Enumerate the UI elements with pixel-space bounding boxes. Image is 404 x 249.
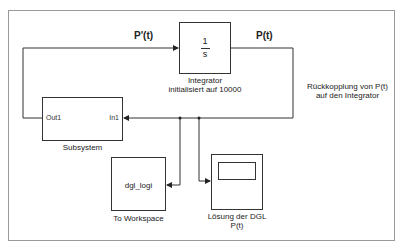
to-workspace-block[interactable]: dgl_logi <box>111 157 166 211</box>
feedback-annotation-line2: auf den Integrator <box>300 91 395 100</box>
integrator-numerator: 1 <box>180 36 230 46</box>
workspace-variable: dgl_logi <box>112 181 165 190</box>
integrator-label: Integrator <box>155 76 255 85</box>
scope-label: Lösung der DGL <box>202 212 272 221</box>
feedback-annotation-line1: Rückkopplung von P(t) <box>300 82 395 91</box>
scope-block[interactable] <box>211 154 263 210</box>
scope-sublabel: P(t) <box>202 221 272 230</box>
subsystem-label: Subsystem <box>42 143 123 152</box>
to-workspace-label: To Workspace <box>106 214 171 223</box>
signal-label-state: P(t) <box>256 30 273 41</box>
subsystem-in-port: In1 <box>109 114 119 121</box>
signal-label-derivative: P'(t) <box>134 30 153 41</box>
subsystem-out-port: Out1 <box>46 114 61 121</box>
integrator-block[interactable]: 1 s <box>179 22 231 74</box>
scope-screen-icon <box>218 162 256 180</box>
integrator-init-label: initialisiert auf 10000 <box>155 85 255 94</box>
integrator-denominator: s <box>180 49 230 59</box>
subsystem-block[interactable]: Out1 In1 <box>42 97 123 141</box>
